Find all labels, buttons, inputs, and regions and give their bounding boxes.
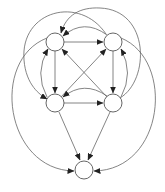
nodes — [46, 33, 122, 179]
edge-A-E — [12, 38, 74, 171]
edge-C-E — [59, 112, 80, 160]
graph-canvas — [0, 0, 165, 192]
node-B — [104, 33, 122, 51]
edges — [12, 8, 155, 171]
edge-D-A — [62, 49, 107, 97]
edge-D-B — [121, 49, 128, 97]
node-E — [75, 161, 93, 179]
edge-C-A — [41, 49, 48, 97]
directed-graph — [0, 0, 165, 192]
edge-B-C-outer — [24, 12, 106, 99]
node-A — [46, 33, 64, 51]
node-D — [104, 94, 122, 112]
node-C — [46, 94, 64, 112]
edge-C-B — [61, 49, 106, 97]
edge-D-E — [88, 112, 110, 160]
edge-B-A — [63, 27, 107, 36]
